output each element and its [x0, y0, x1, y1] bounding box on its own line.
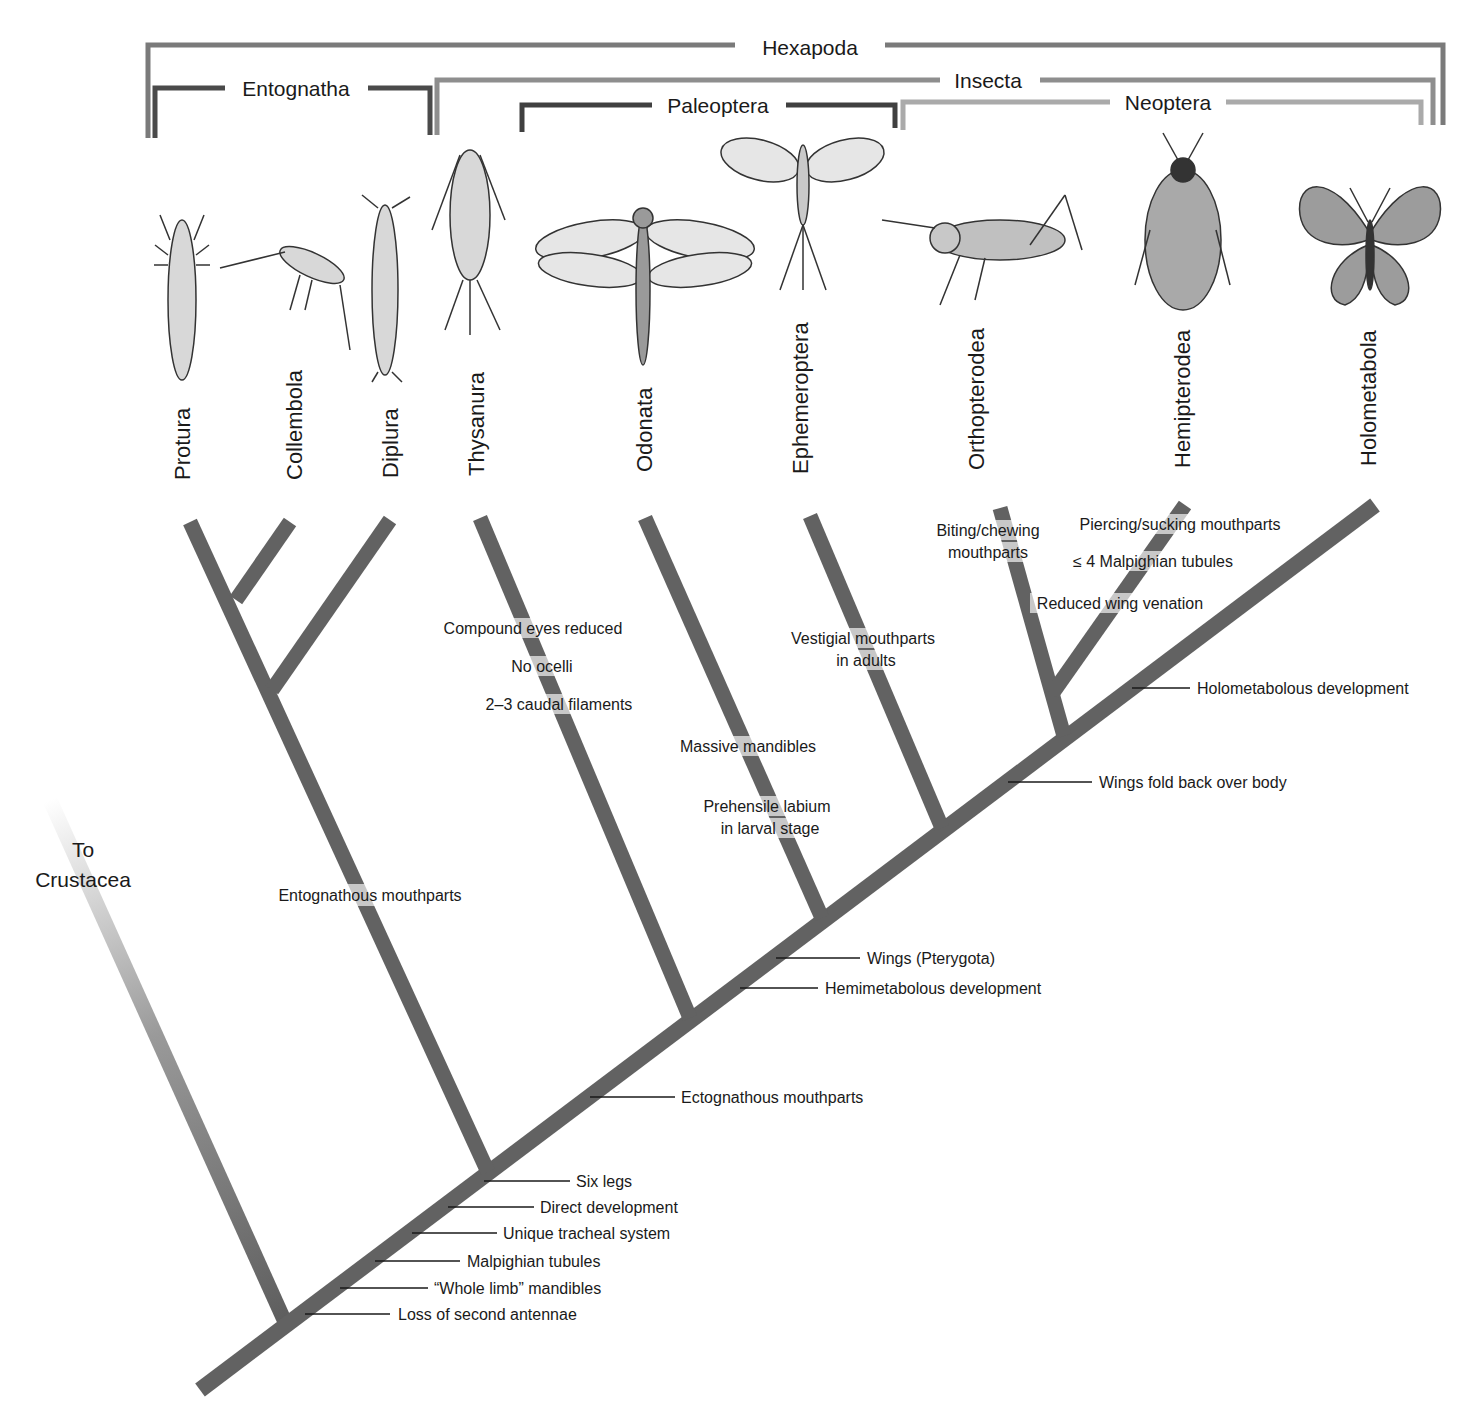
- branch-ephemeroptera: [810, 516, 942, 828]
- taxon-label-ephemeroptera: Ephemeroptera: [788, 322, 813, 474]
- bracket-neoptera: Neoptera: [903, 91, 1421, 130]
- clade-label-paleoptera: Paleoptera: [667, 94, 769, 117]
- taxon-label-orthopterodea: Orthopterodea: [964, 327, 989, 470]
- trait-six-legs: Six legs: [576, 1173, 632, 1190]
- outgroup-label-line1: To: [72, 838, 94, 861]
- trait-prehensile-labium: Prehensile labium: [703, 798, 830, 815]
- cladogram: Hexapoda Entognatha Insecta Paleoptera N…: [0, 0, 1478, 1420]
- branch-thysanura: [480, 518, 690, 1018]
- outgroup-label-line2: Crustacea: [35, 868, 131, 891]
- trait-caudal-filaments: 2–3 caudal filaments: [486, 696, 633, 713]
- true-bug-illustration: [1135, 133, 1230, 310]
- taxon-label-diplura: Diplura: [378, 408, 403, 478]
- taxon-label-collembola: Collembola: [282, 369, 307, 480]
- trait-unique-tracheal-system: Unique tracheal system: [503, 1225, 670, 1242]
- trait-piercing-sucking: Piercing/sucking mouthparts: [1080, 516, 1281, 533]
- trait-wings-pterygota: Wings (Pterygota): [867, 950, 995, 967]
- dipluran-illustration: [362, 195, 410, 382]
- trait-massive-mandibles: Massive mandibles: [680, 738, 816, 755]
- taxon-label-odonata: Odonata: [632, 387, 657, 472]
- clade-brackets: Hexapoda Entognatha Insecta Paleoptera N…: [148, 36, 1443, 138]
- silverfish-illustration: [432, 150, 505, 335]
- springtail-illustration: [220, 239, 350, 350]
- trait-in-larval-stage: in larval stage: [721, 820, 820, 837]
- clade-label-neoptera: Neoptera: [1125, 91, 1212, 114]
- taxon-label-holometabola: Holometabola: [1356, 329, 1381, 466]
- trait-malpighian-tubules: Malpighian tubules: [467, 1253, 600, 1270]
- trait-malpighian-tubules-4: ≤ 4 Malpighian tubules: [1073, 553, 1233, 570]
- taxon-label-protura: Protura: [170, 407, 195, 480]
- trait-biting-chewing: Biting/chewing: [936, 522, 1039, 539]
- trait-ectognathous-mouthparts: Ectognathous mouthparts: [681, 1089, 863, 1106]
- proturan-illustration: [154, 215, 210, 380]
- trait-reduced-wing-venation: Reduced wing venation: [1037, 595, 1203, 612]
- bracket-entognatha: Entognatha: [155, 77, 430, 138]
- branch-diplura: [272, 520, 390, 690]
- tree-branches: [50, 505, 1375, 1390]
- clade-label-insecta: Insecta: [954, 69, 1022, 92]
- dragonfly-illustration: [533, 208, 758, 365]
- taxon-label-hemipterodea: Hemipterodea: [1170, 329, 1195, 468]
- trait-mouthparts: mouthparts: [948, 544, 1028, 561]
- trait-whole-limb-mandibles: “Whole limb” mandibles: [434, 1280, 601, 1297]
- trait-direct-development: Direct development: [540, 1199, 678, 1216]
- clade-label-hexapoda: Hexapoda: [762, 36, 858, 59]
- trait-no-ocelli: No ocelli: [511, 658, 572, 675]
- taxon-labels: Protura Collembola Diplura Thysanura Odo…: [170, 322, 1381, 480]
- trait-wings-fold-back: Wings fold back over body: [1099, 774, 1287, 791]
- bracket-paleoptera: Paleoptera: [522, 94, 895, 132]
- butterfly-illustration: [1300, 187, 1441, 305]
- trait-holometabolous-development: Holometabolous development: [1197, 680, 1409, 697]
- clade-label-entognatha: Entognatha: [242, 77, 350, 100]
- taxon-label-thysanura: Thysanura: [464, 371, 489, 476]
- branch-collembola: [236, 522, 290, 600]
- trait-entognathous-mouthparts: Entognathous mouthparts: [278, 887, 461, 904]
- trait-vestigial-mouthparts: Vestigial mouthparts: [791, 630, 935, 647]
- trunk-trait-text: Loss of second antennae “Whole limb” man…: [398, 680, 1409, 1323]
- trait-in-adults: in adults: [836, 652, 896, 669]
- trait-compound-eyes-reduced: Compound eyes reduced: [444, 620, 623, 637]
- grasshopper-illustration: [882, 195, 1082, 305]
- branch-odonata: [645, 518, 822, 918]
- trait-loss-of-second-antennae: Loss of second antennae: [398, 1306, 577, 1323]
- trait-hemimetabolous-development: Hemimetabolous development: [825, 980, 1042, 997]
